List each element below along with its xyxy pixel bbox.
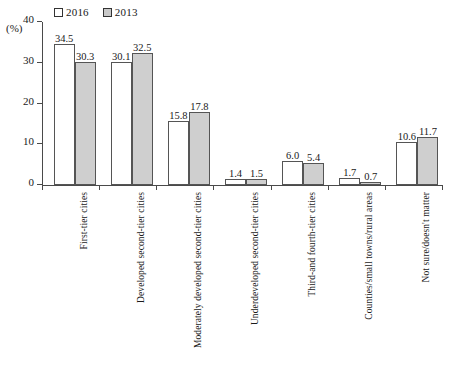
category-label: First-tier cities bbox=[79, 192, 89, 249]
legend-entry-2013: 2013 bbox=[103, 6, 138, 18]
bar-value-label: 1.4 bbox=[229, 168, 242, 179]
bar-value-label: 32.5 bbox=[133, 42, 151, 53]
x-tick bbox=[213, 185, 214, 190]
y-tick-label-10: 10 bbox=[23, 135, 34, 147]
bar-value-label: 11.7 bbox=[419, 126, 437, 137]
y-tick-label-20: 20 bbox=[23, 95, 34, 107]
bar-2013[interactable]: 5.4 bbox=[303, 163, 324, 185]
x-tick bbox=[385, 185, 386, 190]
bar-2016[interactable]: 34.5 bbox=[54, 44, 75, 185]
bar-2013[interactable]: 0.7 bbox=[360, 182, 381, 185]
bar-value-label: 34.5 bbox=[55, 33, 73, 44]
x-tick bbox=[328, 185, 329, 190]
plot-area: 010203040 34.530.330.132.515.817.81.41.5… bbox=[42, 22, 442, 185]
x-axis-line bbox=[42, 185, 442, 186]
y-tick-label-0: 0 bbox=[29, 176, 35, 188]
category-label: Moderately developed second-tier cities bbox=[193, 192, 203, 348]
bar-2013[interactable]: 17.8 bbox=[189, 112, 210, 185]
x-tick bbox=[42, 185, 43, 190]
y-tick-40: 40 bbox=[37, 21, 42, 22]
bar-2013[interactable]: 11.7 bbox=[417, 137, 438, 185]
bar-group: 6.05.4 bbox=[282, 22, 324, 185]
legend-label-2016: 2016 bbox=[66, 6, 89, 18]
bar-group: 10.611.7 bbox=[396, 22, 438, 185]
bar-value-label: 6.0 bbox=[286, 150, 299, 161]
bar-2013[interactable]: 1.5 bbox=[246, 179, 267, 185]
bar-2016[interactable]: 10.6 bbox=[396, 142, 417, 185]
y-tick-label-30: 30 bbox=[23, 54, 34, 66]
category-label: Developed second-tier cities bbox=[136, 192, 146, 303]
y-axis-line bbox=[42, 22, 43, 185]
bar-value-label: 15.8 bbox=[169, 110, 187, 121]
legend-label-2013: 2013 bbox=[115, 6, 138, 18]
bar-value-label: 17.8 bbox=[190, 101, 208, 112]
bar-group: 34.530.3 bbox=[54, 22, 96, 185]
x-tick bbox=[99, 185, 100, 190]
bar-2016[interactable]: 6.0 bbox=[282, 161, 303, 185]
legend-swatch-2013-icon bbox=[103, 8, 112, 17]
y-axis-unit-label: (%) bbox=[6, 22, 23, 34]
bar-value-label: 30.1 bbox=[112, 51, 130, 62]
bar-2016[interactable]: 1.4 bbox=[225, 179, 246, 185]
y-tick-30: 30 bbox=[37, 62, 42, 63]
bar-value-label: 30.3 bbox=[76, 51, 94, 62]
bar-value-label: 0.7 bbox=[364, 171, 377, 182]
x-tick bbox=[442, 185, 443, 190]
category-label: Not sure/doesn't matter bbox=[421, 192, 431, 283]
bar-group: 15.817.8 bbox=[168, 22, 210, 185]
category-label: Third-and fourth-tier cities bbox=[307, 192, 317, 297]
legend-entry-2016: 2016 bbox=[54, 6, 89, 18]
legend-swatch-2016-icon bbox=[54, 8, 63, 17]
bar-2016[interactable]: 30.1 bbox=[111, 62, 132, 185]
x-tick bbox=[156, 185, 157, 190]
bar-2013[interactable]: 32.5 bbox=[132, 53, 153, 185]
y-tick-10: 10 bbox=[37, 143, 42, 144]
bar-group: 1.70.7 bbox=[339, 22, 381, 185]
y-tick-label-40: 40 bbox=[23, 13, 34, 25]
bar-group: 30.132.5 bbox=[111, 22, 153, 185]
bar-2013[interactable]: 30.3 bbox=[75, 62, 96, 185]
bar-value-label: 1.7 bbox=[343, 167, 356, 178]
bar-group: 1.41.5 bbox=[225, 22, 267, 185]
bar-value-label: 1.5 bbox=[250, 168, 263, 179]
category-label: Underdeveloped second-tier cities bbox=[250, 192, 260, 325]
y-tick-20: 20 bbox=[37, 103, 42, 104]
bar-value-label: 5.4 bbox=[307, 152, 320, 163]
bar-value-label: 10.6 bbox=[398, 131, 416, 142]
bar-2016[interactable]: 1.7 bbox=[339, 178, 360, 185]
bar-2016[interactable]: 15.8 bbox=[168, 121, 189, 185]
chart-legend: 2016 2013 bbox=[54, 6, 138, 18]
x-tick bbox=[271, 185, 272, 190]
chart-figure: 2016 2013 (%) 010203040 34.530.330.132.5… bbox=[0, 0, 453, 373]
category-label: Counties/small towns/rural areas bbox=[364, 192, 374, 320]
